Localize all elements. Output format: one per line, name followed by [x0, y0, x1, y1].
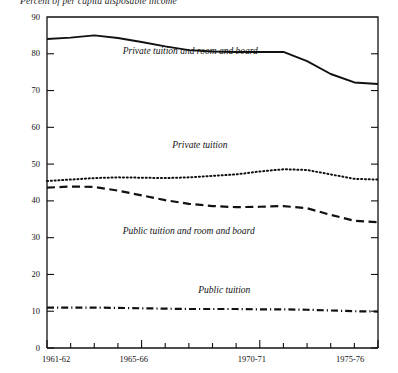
- series-label-1: Private tuition: [172, 140, 227, 150]
- y-axis-tick-label: 80: [14, 48, 40, 58]
- x-axis-tick-label: 1975-76: [336, 354, 364, 364]
- y-axis-tick-label: 90: [14, 12, 40, 22]
- y-axis-tick-label: 50: [14, 159, 40, 169]
- x-axis-tick-label: 1961-62: [42, 354, 70, 364]
- y-axis-tick-label: 10: [14, 306, 40, 316]
- series-line-0: [47, 35, 378, 84]
- y-axis-tick-label: 70: [14, 85, 40, 95]
- y-axis-tick-label: 60: [14, 122, 40, 132]
- chart-figure: Percent of per capita disposable income …: [0, 0, 398, 373]
- series-label-2: Public tuition and room and board: [123, 226, 255, 236]
- y-axis-tick-label: 40: [14, 195, 40, 205]
- series-line-2: [47, 187, 378, 223]
- y-axis-tick-label: 0: [14, 343, 40, 353]
- series-label-3: Public tuition: [198, 285, 250, 295]
- series-line-3: [47, 308, 378, 312]
- y-axis-tick-label: 30: [14, 232, 40, 242]
- plot-frame: [47, 17, 378, 348]
- series-line-1: [47, 169, 378, 181]
- x-axis-tick-label: 1965-66: [120, 354, 148, 364]
- x-axis-tick-label: 1970-71: [238, 354, 266, 364]
- y-axis-tick-label: 20: [14, 269, 40, 279]
- series-label-0: Private tuition and room and board: [123, 46, 258, 56]
- chart-canvas: [0, 0, 398, 373]
